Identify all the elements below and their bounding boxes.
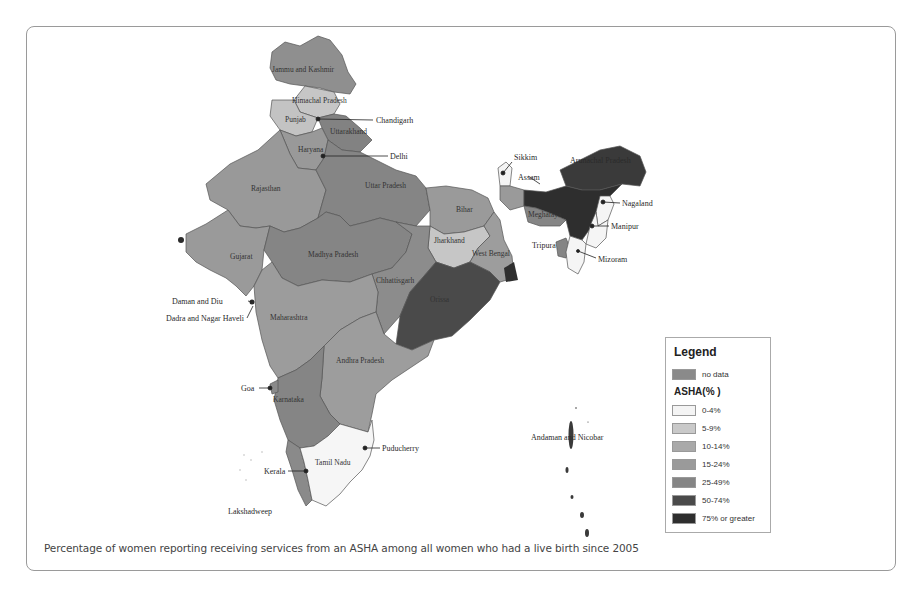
legend-label: no data (702, 370, 729, 379)
legend-row: 15-24% (672, 455, 764, 473)
swatch-75-plus (672, 513, 696, 524)
legend-row: 50-74% (672, 491, 764, 509)
label-karnataka: Karnataka (273, 395, 304, 404)
legend-title: Legend (674, 345, 764, 359)
legend-label: 50-74% (702, 496, 730, 505)
label-orissa: Orissa (430, 295, 450, 304)
label-lakshadweep: Lakshadweep (228, 507, 272, 516)
label-daman: Daman and Diu (172, 297, 223, 306)
label-delhi: Delhi (390, 152, 409, 161)
label-tripura: Tripura (532, 241, 556, 250)
label-manipur: Manipur (611, 222, 639, 231)
label-hp: Himachal Pradesh (292, 96, 347, 105)
label-dnh: Dadra and Nagar Haveli (166, 314, 245, 323)
label-andaman: Andaman and Nicobar (531, 433, 604, 442)
swatch-50-74 (672, 495, 696, 506)
label-mizoram: Mizoram (598, 255, 628, 264)
legend-label: 5-9% (702, 424, 721, 433)
legend-row: 0-4% (672, 401, 764, 419)
swatch-0-4 (672, 405, 696, 416)
label-nagaland: Nagaland (622, 199, 653, 208)
label-jharkhand: Jharkhand (434, 236, 465, 245)
figure-caption: Percentage of women reporting receiving … (44, 542, 884, 554)
label-chandigarh: Chandigarh (376, 116, 413, 125)
label-ap: Andhra Pradesh (336, 356, 384, 365)
label-gujarat: Gujarat (230, 252, 253, 261)
legend-label: 75% or greater (702, 514, 755, 523)
swatch-25-49 (672, 477, 696, 488)
legend-row-no-data: no data (672, 365, 764, 383)
label-meghalaya: Meghalaya (528, 210, 562, 219)
india-map: Jammu and Kashmir Himachal Pradesh Punja… (0, 0, 917, 592)
label-punjab: Punjab (285, 115, 306, 124)
label-jk: Jammu and Kashmir (272, 65, 335, 74)
label-mp: Madhya Pradesh (308, 250, 358, 259)
label-arunachal: Arunachal Pradesh (570, 156, 631, 165)
label-puducherry: Puducherry (382, 444, 419, 453)
region-andaman-nicobar (566, 407, 590, 537)
swatch-15-24 (672, 459, 696, 470)
legend-row: 75% or greater (672, 509, 764, 527)
label-bihar: Bihar (456, 205, 473, 214)
label-maharashtra: Maharashtra (270, 313, 308, 322)
swatch-10-14 (672, 441, 696, 452)
swatch-5-9 (672, 423, 696, 434)
label-assam: Assam (518, 173, 541, 182)
label-kerala: Kerala (264, 467, 286, 476)
label-haryana: Haryana (298, 145, 324, 154)
swatch-no-data (672, 369, 696, 380)
label-sikkim: Sikkim (514, 153, 538, 162)
region-arunachal-pradesh (560, 146, 646, 190)
region-lakshadweep (239, 451, 263, 481)
legend-subtitle: ASHA(% ) (674, 386, 764, 397)
legend-row: 10-14% (672, 437, 764, 455)
label-tn: Tamil Nadu (315, 458, 351, 467)
label-goa: Goa (241, 384, 255, 393)
label-rajasthan: Rajasthan (251, 184, 281, 193)
region-mizoram (566, 236, 586, 274)
region-ne-corridor (500, 186, 524, 210)
legend-row: 5-9% (672, 419, 764, 437)
label-chhattisgarh: Chhattisgarh (376, 276, 415, 285)
legend-label: 25-49% (702, 478, 730, 487)
label-uttarakhand: Uttarakhand (330, 127, 367, 136)
label-wb: West Bengal (472, 249, 510, 258)
label-up: Uttar Pradesh (365, 181, 406, 190)
legend-label: 0-4% (702, 406, 721, 415)
legend-label: 15-24% (702, 460, 730, 469)
legend-label: 10-14% (702, 442, 730, 451)
map-legend: Legend no data ASHA(% ) 0-4% 5-9% 10-14%… (665, 337, 771, 533)
legend-row: 25-49% (672, 473, 764, 491)
